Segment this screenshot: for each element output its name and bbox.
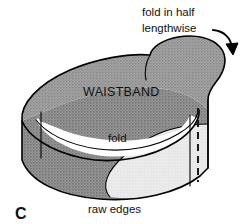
waistband-figure: fold in half lengthwise WAISTBAND fold r… bbox=[0, 0, 242, 224]
fold-in-half-label-line2: lengthwise bbox=[142, 22, 196, 34]
figure-letter-label: C bbox=[15, 205, 27, 222]
raw-edges-label: raw edges bbox=[88, 203, 141, 215]
waistband-illustration: fold in half lengthwise WAISTBAND fold r… bbox=[0, 0, 242, 224]
waistband-label: WAISTBAND bbox=[83, 85, 160, 99]
fold-label: fold bbox=[108, 132, 127, 144]
fold-in-half-label-line1: fold in half bbox=[142, 6, 195, 18]
